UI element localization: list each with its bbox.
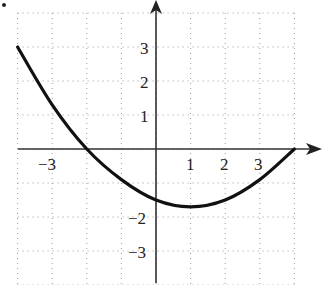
y-tick-label: 3: [140, 39, 149, 58]
y-tick-label: −2: [128, 209, 146, 228]
x-tick-label: 3: [254, 155, 263, 174]
x-tick-label: 2: [220, 155, 229, 174]
bullet-marker: [2, 3, 6, 7]
x-tick-label: 1: [186, 155, 195, 174]
y-tick-label: −3: [128, 243, 146, 262]
x-tick-label: −3: [38, 155, 56, 174]
y-tick-label: 1: [140, 107, 149, 126]
function-graph: −3 1 2 3 3 2 1 −2 −3: [0, 0, 325, 285]
y-tick-label: 2: [140, 73, 149, 92]
